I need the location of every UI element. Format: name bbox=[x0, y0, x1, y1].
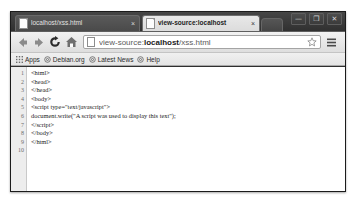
source-line: <body> bbox=[31, 95, 345, 104]
line-number: 9 bbox=[11, 138, 26, 147]
url-host: localhost bbox=[144, 38, 179, 47]
line-number: 8 bbox=[11, 129, 26, 138]
browser-toolbar: view-source:localhost/xss.html bbox=[11, 31, 345, 52]
bookmarks-bar: Apps Debian.org Latest News bbox=[11, 52, 345, 66]
browser-window: localhost/xss.html × view-source:localho… bbox=[10, 11, 346, 192]
bookmark-globe-icon bbox=[137, 56, 144, 63]
line-number: 3 bbox=[11, 86, 26, 95]
view-source-pane: 1 2 3 4 5 6 7 8 9 10 <html> <head> </hea… bbox=[11, 67, 345, 191]
tab-title: view-source:localhost bbox=[158, 20, 248, 27]
line-number: 10 bbox=[11, 146, 26, 155]
bookmark-label: Apps bbox=[25, 56, 40, 63]
source-line: <script type="text/javascript"> bbox=[31, 103, 345, 112]
new-tab-button[interactable] bbox=[261, 18, 283, 31]
browser-tab-active[interactable]: view-source:localhost × bbox=[142, 15, 260, 31]
bookmark-label: Help bbox=[146, 56, 159, 63]
source-line: <head> bbox=[31, 78, 345, 87]
tab-strip: localhost/xss.html × view-source:localho… bbox=[11, 12, 345, 31]
tab-title: localhost/xss.html bbox=[31, 20, 128, 27]
source-line: </html> bbox=[31, 138, 345, 147]
close-icon: ✕ bbox=[328, 14, 341, 24]
close-button[interactable]: ✕ bbox=[327, 13, 342, 25]
star-icon[interactable] bbox=[307, 37, 317, 47]
bookmark-latest-news[interactable]: Latest News bbox=[89, 56, 134, 63]
maximize-button[interactable]: ❐ bbox=[309, 13, 324, 25]
address-bar-text: view-source:localhost/xss.html bbox=[99, 38, 307, 47]
bookmark-help[interactable]: Help bbox=[137, 56, 159, 63]
source-line: document.write("A script was used to dis… bbox=[31, 112, 345, 121]
reload-icon[interactable] bbox=[48, 35, 62, 49]
source-code-area[interactable]: <html> <head> </head> <body> <script typ… bbox=[27, 67, 345, 191]
browser-tab-inactive[interactable]: localhost/xss.html × bbox=[15, 15, 140, 31]
bookmark-globe-icon bbox=[44, 56, 51, 63]
line-number: 1 bbox=[11, 69, 26, 78]
source-line: <html> bbox=[31, 69, 345, 78]
line-number: 4 bbox=[11, 95, 26, 104]
line-number-gutter: 1 2 3 4 5 6 7 8 9 10 bbox=[11, 67, 27, 191]
maximize-icon: ❐ bbox=[310, 14, 323, 24]
bookmark-globe-icon bbox=[89, 56, 96, 63]
bookmark-debian-org[interactable]: Debian.org bbox=[44, 56, 85, 63]
minimize-icon: — bbox=[292, 14, 305, 24]
home-icon[interactable] bbox=[64, 35, 78, 49]
bookmark-apps[interactable]: Apps bbox=[16, 56, 40, 63]
line-number: 6 bbox=[11, 112, 26, 121]
line-number: 7 bbox=[11, 121, 26, 130]
line-number: 5 bbox=[11, 103, 26, 112]
page-favicon-icon bbox=[87, 37, 95, 47]
tab-close-icon[interactable]: × bbox=[130, 20, 136, 27]
hamburger-menu-icon[interactable] bbox=[324, 35, 338, 49]
bookmark-label: Debian.org bbox=[53, 56, 85, 63]
apps-grid-icon bbox=[16, 56, 23, 63]
page-favicon-icon bbox=[146, 18, 155, 29]
source-line: </script> bbox=[31, 121, 345, 130]
forward-arrow-icon[interactable] bbox=[32, 35, 46, 49]
source-line bbox=[31, 146, 345, 155]
minimize-button[interactable]: — bbox=[291, 13, 306, 25]
window-controls: — ❐ ✕ bbox=[291, 13, 342, 25]
page-favicon-icon bbox=[19, 18, 28, 29]
source-line: </head> bbox=[31, 86, 345, 95]
address-bar[interactable]: view-source:localhost/xss.html bbox=[83, 35, 321, 49]
source-line: </body> bbox=[31, 129, 345, 138]
tab-close-icon[interactable]: × bbox=[250, 20, 256, 27]
url-scheme: view-source: bbox=[99, 38, 144, 47]
bookmark-label: Latest News bbox=[98, 56, 134, 63]
line-number: 2 bbox=[11, 78, 26, 87]
back-arrow-icon[interactable] bbox=[16, 35, 30, 49]
url-path: /xss.html bbox=[179, 38, 211, 47]
